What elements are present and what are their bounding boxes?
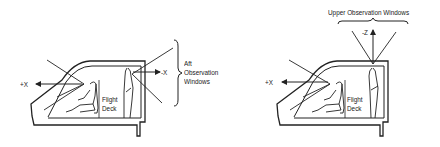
right-outer-hull [277,61,388,136]
right-plus-x-label: +X [265,78,273,87]
upper-observation-label: Upper Observation Windows [328,8,409,17]
left-deck-label: Deck [102,104,117,113]
left-plus-x-label: +X [20,80,28,89]
right-cabin-diagram [277,18,408,136]
left-outer-hull [31,61,145,136]
left-flight-label: Flight [102,95,118,104]
left-minus-x-label: -X [161,68,167,77]
aft-label-line3: Windows [184,77,210,86]
diagram-canvas: +X -X Flight Deck Aft Observation Window… [0,0,440,147]
left-cabin-diagram [31,40,182,136]
right-deck-label: Deck [347,104,362,113]
right-flight-label: Flight [347,95,363,104]
diagram-drawing [0,0,440,147]
aft-label-line2: Observation [184,68,218,77]
right-minus-z-label: -Z [362,28,368,37]
aft-label-line1: Aft [184,59,192,68]
